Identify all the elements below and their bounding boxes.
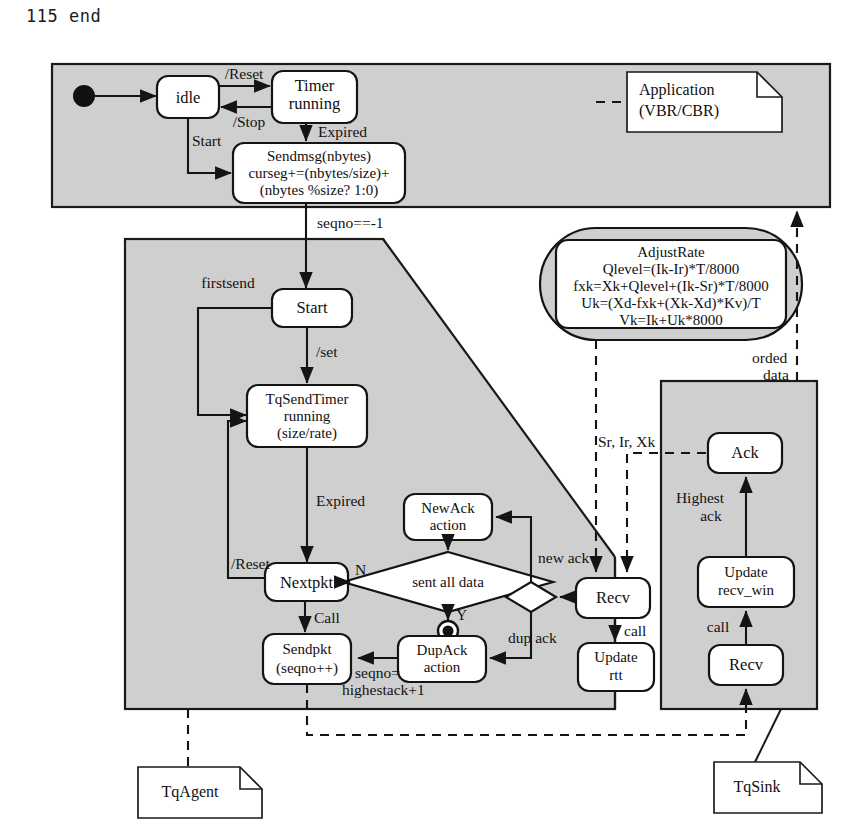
- transition-label-set: /set: [316, 343, 338, 360]
- dataflow-ordered-data-label-1: orded: [752, 349, 788, 366]
- state-sendmsg-label-2: curseg+=(nbytes/size)+: [248, 165, 389, 182]
- state-sendmsg-label-3: (nbytes %size? 1:0): [260, 182, 378, 199]
- decision-yes-label: Y: [456, 606, 467, 623]
- adjustrate-formula-2: fxk=Xk+Qlevel+(Ik-Sr)*T/8000: [573, 278, 768, 295]
- state-nextpkt-label: Nextpkt: [280, 573, 334, 592]
- note-tqagent-label: TqAgent: [162, 783, 219, 801]
- transition-label-start: Start: [192, 132, 222, 149]
- state-ack-label: Ack: [731, 443, 759, 462]
- decision-sent-all-data-label: sent all data: [412, 574, 484, 590]
- adjustrate-title: AdjustRate: [637, 244, 705, 260]
- state-update-recv-win-label-1: Update: [724, 564, 768, 580]
- state-update-recv-win-label-2: recv_win: [718, 582, 774, 598]
- state-sendmsg-label-1: Sendmsg(nbytes): [267, 148, 371, 165]
- dataflow-feedback-label: Sr, Ir, Xk: [598, 433, 656, 450]
- uml-state-diagram: idle Timer running /Reset /Stop Sendmsg(…: [0, 0, 854, 829]
- state-tqsendtimer-label-2: running: [284, 408, 331, 424]
- state-timer-running-label-2: running: [289, 94, 340, 113]
- state-recv-sink-label: Recv: [729, 655, 764, 674]
- state-timer-running-label-1: Timer: [295, 76, 335, 95]
- state-sendpkt-label-1: Sendpkt: [282, 641, 332, 657]
- decision-no-label: N: [355, 561, 366, 578]
- state-sendpkt-label-2: (seqno++): [276, 660, 338, 677]
- state-update-rtt-label-2: rtt: [609, 667, 623, 683]
- initial-state-marker: [73, 85, 95, 107]
- state-tqsendtimer-label-1: TqSendTimer: [266, 391, 349, 407]
- state-newack-label-2: action: [430, 517, 467, 533]
- adjustrate-formula-1: Qlevel=(Ik-Ir)*T/8000: [603, 261, 740, 278]
- transition-label-firstsend: firstsend: [201, 274, 255, 291]
- transition-label-stop: /Stop: [233, 113, 266, 130]
- note-application-label-1: Application: [639, 81, 715, 99]
- adjustrate-formula-4: Vk=Ik+Uk*8000: [619, 312, 723, 328]
- transition-label-dup-ack: dup ack: [508, 629, 557, 646]
- transition-label-call-agent: Call: [314, 609, 340, 626]
- note-tqsink-label: TqSink: [733, 778, 780, 796]
- final-state-inner: [443, 626, 454, 637]
- transition-label-expired-agent: Expired: [316, 492, 365, 509]
- transition-label-expired-top: Expired: [318, 123, 367, 140]
- state-idle-label: idle: [176, 88, 201, 107]
- transition-label-highest: Highest: [676, 489, 725, 506]
- transition-label-seqno-minus-one: seqno==-1: [317, 214, 384, 231]
- transition-label-call-rtt: call: [624, 622, 646, 639]
- transition-label-call-sink: call: [707, 618, 729, 635]
- transition-label-reset: /Reset: [225, 65, 264, 82]
- transition-label-reset-agent: /Reset: [231, 555, 270, 572]
- dataflow-ordered-data-label-2: data: [763, 366, 789, 383]
- transition-label-seqno-highestack-1: seqno=: [355, 664, 400, 681]
- state-update-rtt-label-1: Update: [594, 649, 638, 665]
- transition-label-ack: ack: [700, 507, 722, 524]
- adjustrate-formula-3: Uk=(Xd-fxk+(Xk-Xd)*Kv)/T: [581, 295, 760, 312]
- transition-label-new-ack: new ack: [538, 549, 589, 566]
- state-dupack-label-1: DupAck: [417, 642, 468, 658]
- state-tqsendtimer-label-3: (size/rate): [277, 425, 337, 442]
- state-dupack-label-2: action: [424, 659, 461, 675]
- note-application-label-2: (VBR/CBR): [639, 102, 719, 120]
- state-recv-agent-label: Recv: [596, 588, 631, 607]
- state-start-label: Start: [296, 298, 328, 317]
- state-newack-label-1: NewAck: [421, 500, 475, 516]
- transition-label-seqno-highestack-2: highestack+1: [342, 681, 425, 698]
- note-tqsink-anchor: [755, 709, 781, 762]
